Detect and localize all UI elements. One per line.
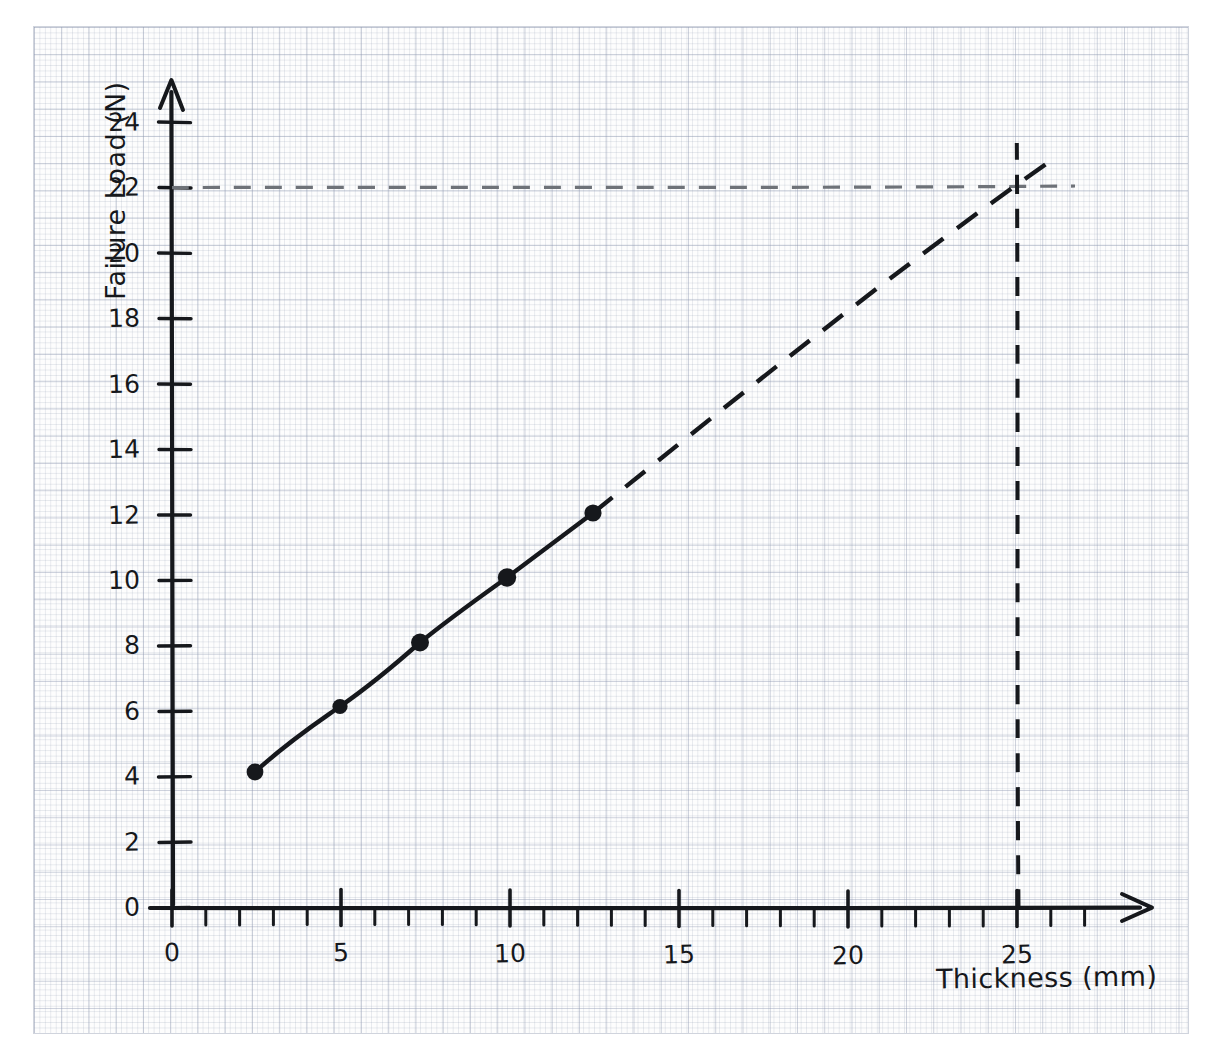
y-tick-label-2: 2 bbox=[78, 827, 141, 857]
x-tick-label-20: 20 bbox=[818, 940, 879, 971]
chart-page: 24 22 20 18 16 14 12 10 8 6 4 2 0 0 5 10… bbox=[0, 0, 1214, 1060]
y-tick-label-12: 12 bbox=[78, 500, 141, 530]
y-tick-label-6: 6 bbox=[78, 696, 141, 726]
vertical-guide-line bbox=[1017, 143, 1019, 908]
y-tick-label-14: 14 bbox=[78, 434, 141, 464]
horizontal-guide-line bbox=[172, 186, 1075, 188]
data-point-marker bbox=[411, 634, 429, 652]
y-tick-label-10: 10 bbox=[78, 565, 141, 595]
data-point-marker bbox=[247, 764, 264, 781]
x-tick-label-5: 5 bbox=[311, 937, 372, 968]
x-tick-label-10: 10 bbox=[480, 938, 541, 969]
x-axis-title: Thickness (mm) bbox=[936, 960, 1158, 994]
data-point-marker bbox=[584, 504, 601, 521]
y-tick-label-0: 0 bbox=[78, 892, 141, 922]
y-tick-label-4: 4 bbox=[78, 761, 141, 791]
y-axis bbox=[160, 80, 183, 905]
chart-plot-area bbox=[0, 0, 1214, 1060]
y-tick-label-8: 8 bbox=[78, 630, 141, 660]
x-tick-label-15: 15 bbox=[649, 939, 710, 970]
data-point-marker bbox=[332, 699, 347, 714]
x-tick-label-0: 0 bbox=[142, 937, 203, 968]
y-tick-label-18: 18 bbox=[78, 303, 141, 333]
data-point-marker bbox=[498, 568, 516, 586]
series-extrapolation-line bbox=[593, 155, 1059, 513]
y-tick-label-16: 16 bbox=[78, 369, 141, 399]
x-axis bbox=[150, 894, 1152, 921]
y-axis-title: Failure Load (N) bbox=[100, 82, 131, 300]
